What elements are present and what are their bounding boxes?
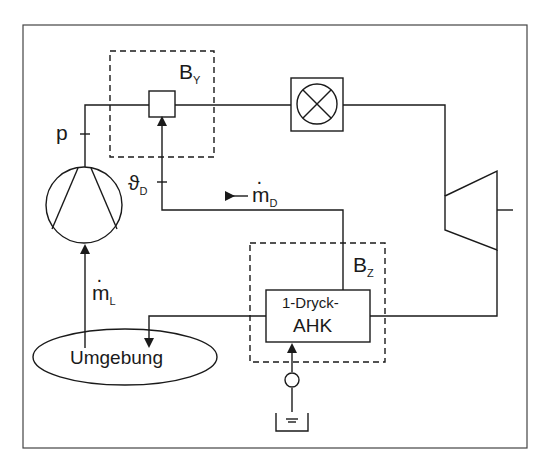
environment-label: Umgebung [70, 348, 163, 367]
turbine [445, 171, 497, 250]
steam-flow-label: mD [252, 184, 277, 205]
compressor [46, 167, 122, 243]
hrsg-label-line2: AHK [293, 316, 332, 335]
mixing-node [149, 91, 175, 117]
temperature-label: ϑD [128, 172, 147, 193]
pressure-label: p [56, 122, 68, 143]
feed-pump [285, 373, 299, 387]
air-flow-label: mL [92, 282, 116, 303]
process-diagram [0, 0, 547, 466]
hrsg-label-line1: 1-Dryck- [282, 295, 339, 310]
pipe-exhaust [149, 316, 266, 343]
pipe-turbine-hrsg [370, 250, 497, 316]
pipe-valve-turbine [343, 105, 445, 196]
boundary-z-label: BZ [353, 254, 374, 275]
boundary-y-label: BY [179, 61, 200, 82]
